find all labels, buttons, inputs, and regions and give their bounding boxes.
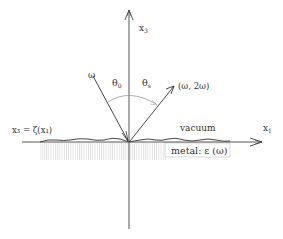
scattering-geometry-diagram: metal: ε (ω) x3 x1 ω (ω, 2ω) θ0 θs x₃ = … [0, 0, 283, 239]
x3-label: x3 [139, 23, 148, 34]
theta-0-label: θ0 [112, 77, 122, 89]
surface-profile-label: x₃ = ζ(x₁) [12, 125, 52, 135]
scattered-frequency-label: (ω, 2ω) [178, 81, 209, 91]
x1-label: x1 [263, 123, 272, 134]
x3-axis [125, 10, 133, 229]
metal-region [40, 143, 166, 160]
metal-label: metal: ε (ω) [171, 145, 227, 156]
angle-arc [108, 95, 156, 104]
rough-surface [40, 138, 230, 142]
vacuum-label: vacuum [179, 123, 216, 133]
theta-s-label: θs [142, 77, 151, 89]
metal-label-box: metal: ε (ω) [165, 143, 230, 157]
incident-ray [93, 76, 128, 141]
scattered-ray [130, 86, 174, 141]
incident-frequency-label: ω [88, 70, 95, 80]
